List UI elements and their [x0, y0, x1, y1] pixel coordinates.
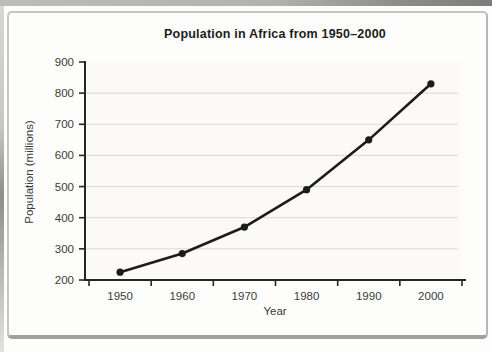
data-point [116, 269, 123, 276]
y-tick-label: 600 [55, 149, 74, 161]
line-chart: 2003004005006007008009001950196019701980… [0, 0, 492, 352]
x-tick-label: 2000 [418, 290, 444, 302]
x-tick-label: 1960 [169, 290, 195, 302]
y-tick-label: 200 [55, 274, 74, 286]
y-tick-label: 800 [55, 87, 74, 99]
plot-background [85, 62, 462, 280]
scanned-page: Population in Africa from 1950–2000 Popu… [0, 0, 492, 352]
y-tick-label: 700 [55, 118, 74, 130]
x-tick-label: 1980 [294, 290, 320, 302]
y-tick-label: 400 [55, 212, 74, 224]
data-point [303, 186, 310, 193]
data-point [179, 250, 186, 257]
x-tick-label: 1990 [356, 290, 382, 302]
x-tick-label: 1950 [107, 290, 133, 302]
y-tick-label: 300 [55, 243, 74, 255]
data-point [241, 223, 248, 230]
y-tick-label: 500 [55, 181, 74, 193]
data-point [365, 136, 372, 143]
x-tick-label: 1970 [232, 290, 258, 302]
data-point [427, 80, 434, 87]
y-tick-label: 900 [55, 56, 74, 68]
